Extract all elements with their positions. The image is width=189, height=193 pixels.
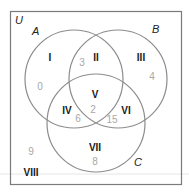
venn-diagram: U A B C I II III IV V VI VII VIII 0 3 4 …: [0, 0, 189, 193]
region-iii-count: 4: [149, 71, 155, 82]
region-i-label: I: [49, 52, 52, 63]
set-b-label: B: [152, 23, 159, 35]
region-vii-count: 8: [92, 156, 98, 167]
region-iv-label: IV: [62, 105, 72, 116]
region-ii-label: II: [93, 52, 99, 63]
set-a-label: A: [31, 25, 39, 37]
region-iii-label: III: [137, 52, 146, 63]
set-c-label: C: [134, 156, 142, 168]
region-vi-count: 15: [106, 114, 118, 125]
region-i-count: 0: [37, 81, 43, 92]
region-viii-count: 9: [28, 146, 34, 157]
universe-label: U: [15, 14, 23, 26]
region-v-count: 2: [90, 104, 96, 115]
region-vi-label: VI: [121, 105, 131, 116]
region-viii-label: VIII: [23, 167, 38, 178]
region-ii-count: 3: [79, 57, 85, 68]
region-iv-count: 6: [75, 113, 81, 124]
region-vii-label: VII: [89, 142, 101, 153]
region-v-label: V: [92, 89, 99, 100]
